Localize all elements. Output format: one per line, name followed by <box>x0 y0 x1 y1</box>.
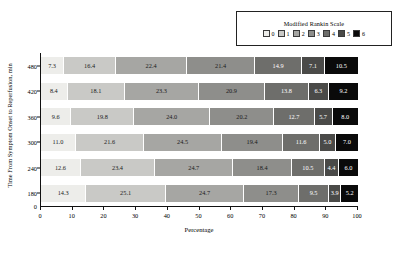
bar-segment-value: 12.6 <box>55 165 66 171</box>
x-tick-mark <box>199 206 200 210</box>
stacked-bar-chart: Modified Rankin Scale 0123456 7.316.422.… <box>0 0 401 260</box>
bar-segment-mrs-6[interactable]: 10.5 <box>325 57 358 74</box>
legend-label-2: 2 <box>302 31 305 37</box>
bar-row[interactable]: 7.316.422.421.414.97.110.5 <box>41 57 358 74</box>
x-tick-label-100: 100 <box>352 212 361 219</box>
bar-segment-mrs-6[interactable]: 6.0 <box>339 159 358 176</box>
bar-segment-mrs-4[interactable]: 12.7 <box>274 108 314 125</box>
bar-segment-mrs-4[interactable]: 11.6 <box>283 134 320 151</box>
x-tick-mark <box>40 206 41 210</box>
bar-segment-value: 5.0 <box>323 139 331 145</box>
bar-segment-mrs-2[interactable]: 23.3 <box>125 83 199 100</box>
legend-swatch-5 <box>338 30 345 37</box>
x-tick-label-30: 30 <box>132 212 138 219</box>
bar-segment-mrs-4[interactable]: 10.5 <box>292 159 325 176</box>
legend-label-3: 3 <box>317 31 320 37</box>
legend-item-6[interactable]: 6 <box>353 30 365 37</box>
x-tick-mark <box>230 206 231 210</box>
bar-segment-mrs-4[interactable]: 14.9 <box>255 57 302 74</box>
legend-item-5[interactable]: 5 <box>338 30 350 37</box>
bar-segment-mrs-2[interactable]: 24.7 <box>166 185 244 202</box>
bar-segment-mrs-2[interactable]: 24.7 <box>155 159 233 176</box>
x-tick-label-60: 60 <box>227 212 233 219</box>
bar-segment-mrs-3[interactable]: 19.4 <box>222 134 283 151</box>
bar-segment-mrs-6[interactable]: 5.2 <box>341 185 357 202</box>
bar-segment-mrs-1[interactable]: 19.8 <box>71 108 134 125</box>
bar-segment-mrs-3[interactable]: 20.9 <box>199 83 265 100</box>
legend-item-4[interactable]: 4 <box>323 30 335 37</box>
x-tick-label-10: 10 <box>69 212 75 219</box>
bar-segment-mrs-5[interactable]: 7.1 <box>302 57 325 74</box>
x-tick-mark <box>325 206 326 210</box>
legend-swatch-6 <box>353 30 360 37</box>
plot-area: 7.316.422.421.414.97.110.54808.418.123.3… <box>40 53 358 206</box>
x-tick-mark <box>357 206 358 210</box>
legend-swatch-4 <box>323 30 330 37</box>
bar-segment-mrs-4[interactable]: 9.5 <box>299 185 329 202</box>
bar-segment-mrs-2[interactable]: 22.4 <box>116 57 187 74</box>
bar-segment-value: 7.0 <box>343 139 351 145</box>
legend-item-2[interactable]: 2 <box>293 30 305 37</box>
bar-segment-mrs-5[interactable]: 5.7 <box>315 108 333 125</box>
legend-item-3[interactable]: 3 <box>308 30 320 37</box>
bar-segment-mrs-0[interactable]: 9.6 <box>41 108 71 125</box>
bar-segment-value: 24.7 <box>199 190 210 196</box>
y-tick-mark <box>37 91 40 92</box>
bar-segment-mrs-3[interactable]: 21.4 <box>187 57 255 74</box>
x-tick-mark <box>167 206 168 210</box>
bar-segment-value: 8.4 <box>50 88 58 94</box>
bar-segment-value: 18.1 <box>90 88 101 94</box>
bar-row[interactable]: 9.619.824.020.212.75.78.0 <box>41 108 358 125</box>
bar-segment-value: 16.4 <box>84 63 95 69</box>
bar-segment-mrs-2[interactable]: 24.5 <box>144 134 222 151</box>
bar-segment-mrs-0[interactable]: 11.0 <box>41 134 76 151</box>
y-tick-mark <box>37 65 40 66</box>
bar-segment-mrs-4[interactable]: 13.8 <box>265 83 309 100</box>
legend-item-0[interactable]: 0 <box>263 30 275 37</box>
bar-segment-mrs-1[interactable]: 21.6 <box>76 134 144 151</box>
bar-segment-mrs-1[interactable]: 23.4 <box>81 159 155 176</box>
bar-row[interactable]: 8.418.123.320.913.86.39.2 <box>41 83 358 100</box>
bar-segment-value: 21.6 <box>104 139 115 145</box>
bar-row[interactable]: 11.021.624.519.411.65.07.0 <box>41 134 358 151</box>
bar-segment-mrs-0[interactable]: 12.6 <box>41 159 81 176</box>
bar-segment-mrs-6[interactable]: 8.0 <box>333 108 358 125</box>
bar-segment-mrs-0[interactable]: 7.3 <box>41 57 64 74</box>
legend-label-6: 6 <box>362 31 365 37</box>
bar-segment-value: 9.2 <box>339 88 347 94</box>
x-tick-label-0: 0 <box>38 212 41 219</box>
bar-segment-mrs-6[interactable]: 7.0 <box>336 134 358 151</box>
bar-segment-mrs-1[interactable]: 16.4 <box>64 57 116 74</box>
bar-segment-mrs-1[interactable]: 18.1 <box>68 83 125 100</box>
legend-swatch-1 <box>278 30 285 37</box>
bar-segment-value: 6.3 <box>314 88 322 94</box>
bar-segment-mrs-5[interactable]: 5.0 <box>320 134 336 151</box>
x-tick-mark <box>262 206 263 210</box>
bar-segment-value: 6.0 <box>345 165 353 171</box>
bar-segment-value: 19.8 <box>97 114 108 120</box>
bar-segment-mrs-0[interactable]: 14.3 <box>41 185 86 202</box>
bar-segment-mrs-3[interactable]: 20.2 <box>210 108 274 125</box>
bar-segment-value: 11.6 <box>296 139 307 145</box>
legend-items: 0123456 <box>263 30 365 37</box>
bar-segment-mrs-5[interactable]: 4.4 <box>325 159 339 176</box>
bar-segment-value: 18.4 <box>257 165 268 171</box>
bar-segment-value: 9.5 <box>310 190 318 196</box>
bar-segment-mrs-3[interactable]: 18.4 <box>233 159 291 176</box>
bar-segment-mrs-3[interactable]: 17.3 <box>244 185 299 202</box>
bar-row[interactable]: 12.623.424.718.410.54.46.0 <box>41 159 358 176</box>
bar-segment-value: 3.9 <box>331 190 339 196</box>
bar-row[interactable]: 14.325.124.717.39.53.95.2 <box>41 185 358 202</box>
bar-segment-value: 11.0 <box>53 139 64 145</box>
bar-segment-value: 20.2 <box>236 114 247 120</box>
bar-segment-value: 23.4 <box>112 165 123 171</box>
bar-segment-mrs-1[interactable]: 25.1 <box>86 185 166 202</box>
bar-segment-mrs-6[interactable]: 9.2 <box>329 83 358 100</box>
bar-segment-mrs-0[interactable]: 8.4 <box>41 83 68 100</box>
bar-segment-mrs-2[interactable]: 24.0 <box>134 108 210 125</box>
bar-segment-value: 10.5 <box>302 165 313 171</box>
bar-segment-value: 7.3 <box>48 63 56 69</box>
legend-item-1[interactable]: 1 <box>278 30 290 37</box>
bar-segment-mrs-5[interactable]: 3.9 <box>329 185 341 202</box>
bar-segment-mrs-5[interactable]: 6.3 <box>309 83 329 100</box>
